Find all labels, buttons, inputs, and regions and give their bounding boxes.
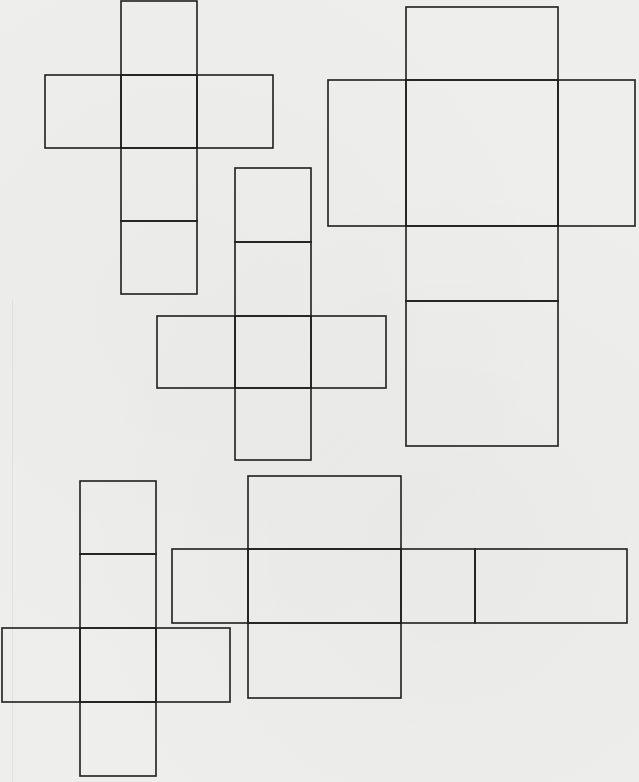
net-4-face-2 <box>80 554 156 628</box>
worksheet-page <box>0 0 639 782</box>
net-4-face-3 <box>2 628 80 702</box>
net-5-face-2 <box>172 549 248 623</box>
net-4-face-5 <box>156 628 230 702</box>
net-2-face-4 <box>558 80 635 226</box>
net-3-face-1 <box>235 168 311 242</box>
net-3 <box>157 168 386 460</box>
net-5 <box>172 476 627 698</box>
net-2 <box>328 7 635 446</box>
net-1-face-5 <box>121 148 197 221</box>
net-3-face-4 <box>235 316 311 388</box>
net-2-face-2 <box>328 80 406 226</box>
net-4 <box>2 481 230 776</box>
net-1-face-6 <box>121 221 197 294</box>
net-2-face-3 <box>406 80 558 226</box>
net-3-face-5 <box>311 316 386 388</box>
net-2-face-1 <box>406 7 558 80</box>
net-2-face-6 <box>406 301 558 446</box>
net-1-face-2 <box>45 75 121 148</box>
net-1-face-4 <box>197 75 273 148</box>
net-2-face-5 <box>406 226 558 301</box>
net-5-face-1 <box>248 476 401 549</box>
net-5-face-6 <box>248 623 401 698</box>
net-4-face-4 <box>80 628 156 702</box>
net-5-face-3 <box>248 549 401 623</box>
net-1 <box>45 1 273 294</box>
net-3-face-2 <box>235 242 311 316</box>
cube-nets-drawing <box>0 0 639 782</box>
net-4-face-1 <box>80 481 156 554</box>
net-1-face-1 <box>121 1 197 75</box>
net-5-face-4 <box>401 549 475 623</box>
net-5-face-5 <box>475 549 627 623</box>
net-4-face-6 <box>80 702 156 776</box>
net-3-face-6 <box>235 388 311 460</box>
net-3-face-3 <box>157 316 235 388</box>
net-1-face-3 <box>121 75 197 148</box>
